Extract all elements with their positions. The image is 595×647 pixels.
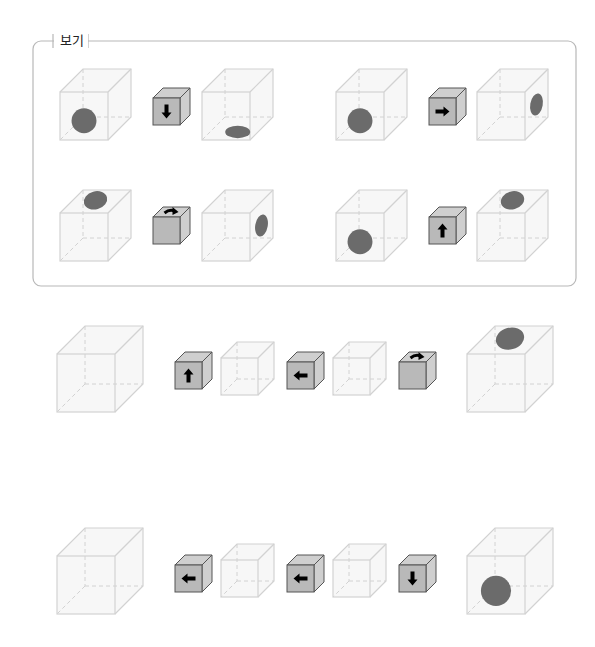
problem-1-start-cube (57, 326, 143, 412)
problem-1-step-1-mid-cube (221, 342, 274, 395)
dot-front (72, 108, 97, 133)
example-2-op-cube-right (429, 88, 466, 125)
problem-1-step-2-mid-cube (333, 342, 386, 395)
example-4-op-cube-up (429, 207, 466, 244)
legend-label: 보기 (56, 33, 88, 49)
cube-rotation-diagram (0, 0, 595, 647)
problem-1-step-3-op-cube-rotate (399, 352, 436, 389)
problem-1-step-2-op-cube-left (287, 352, 324, 389)
dot-front (348, 229, 373, 254)
problem-2-step-1-mid-cube (221, 544, 274, 597)
dot-bottom (225, 126, 250, 138)
example-1-op-cube-down (153, 88, 190, 125)
problem-2-step-2-mid-cube (333, 544, 386, 597)
example-1-before-cube (60, 69, 131, 140)
example-4-after-cube (477, 189, 548, 261)
problem-2-step-2-op-cube-left (287, 555, 324, 592)
example-2-after-cube (477, 69, 548, 140)
dot-front (481, 576, 511, 606)
problem-1-result-cube (467, 324, 553, 412)
example-3-before-cube (60, 189, 131, 261)
dot-front (348, 108, 373, 133)
problem-2-start-cube (57, 528, 143, 614)
example-2-before-cube (336, 69, 407, 140)
problem-1-step-1-op-cube-up (175, 352, 212, 389)
problem-2-step-3-op-cube-down (399, 555, 436, 592)
problem-2-step-1-op-cube-left (175, 555, 212, 592)
example-1-after-cube (202, 69, 273, 140)
example-3-op-cube-rotate (153, 207, 190, 244)
problem-2-result-cube (467, 528, 553, 614)
example-4-before-cube (336, 190, 407, 261)
example-3-after-cube (202, 190, 273, 261)
